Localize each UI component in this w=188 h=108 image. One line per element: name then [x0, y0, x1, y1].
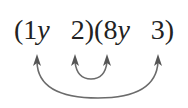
arrowhead-icons	[33, 54, 162, 66]
outer-arc-arrow	[37, 62, 158, 98]
inner-arc-arrow	[75, 62, 107, 79]
multiplication-arrows	[0, 0, 188, 108]
